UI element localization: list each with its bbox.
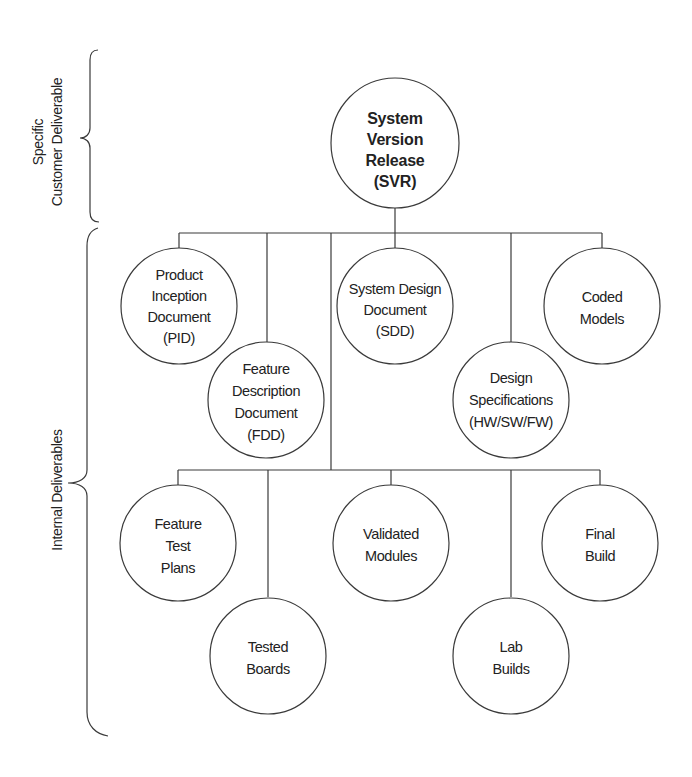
node-svr: System Version Release (SVR) <box>331 78 459 208</box>
node-lb-line-1: Lab <box>500 639 523 655</box>
node-sdd: System Design Document (SDD) <box>337 248 453 364</box>
node-pid: Product Inception Document (PID) <box>121 248 237 364</box>
node-ftp-line-3: Plans <box>161 560 195 576</box>
node-fdd-line-3: Document <box>235 405 298 421</box>
node-pid-line-3: Document <box>148 309 211 325</box>
node-lb: Lab Builds <box>453 598 569 714</box>
node-cm-line-1: Coded <box>582 289 623 305</box>
node-tb: Tested Boards <box>210 598 326 714</box>
node-tb-line-1: Tested <box>248 639 289 655</box>
node-svr-line-3: Release <box>365 152 424 169</box>
node-ftp-line-2: Test <box>166 538 191 554</box>
customer-deliverable-brace <box>80 50 99 222</box>
node-lb-line-2: Builds <box>492 661 529 677</box>
node-tb-line-2: Boards <box>246 661 290 677</box>
node-ds: Design Specifications (HW/SW/FW) <box>453 342 569 458</box>
side-label-internal-deliverables: Internal Deliverables <box>49 429 65 551</box>
node-fdd-line-1: Feature <box>242 361 290 377</box>
node-ds-line-2: Specifications <box>469 392 553 408</box>
side-label-specific: Specific <box>30 118 46 165</box>
node-ds-line-3: (HW/SW/FW) <box>469 414 553 430</box>
node-ds-line-1: Design <box>490 370 533 386</box>
node-vm-line-1: Validated <box>363 526 419 542</box>
node-vm: Validated Modules <box>333 485 449 601</box>
node-fb: Final Build <box>542 485 658 601</box>
node-sdd-line-1: System Design <box>349 281 442 297</box>
node-cm: Coded Models <box>544 248 660 364</box>
node-pid-line-1: Product <box>155 267 203 283</box>
node-sdd-line-2: Document <box>364 302 427 318</box>
internal-deliverables-brace <box>68 228 108 736</box>
node-fdd: Feature Description Document (FDD) <box>208 342 324 458</box>
node-ftp-line-1: Feature <box>154 516 202 532</box>
node-vm-line-2: Modules <box>365 548 417 564</box>
node-fdd-line-2: Description <box>232 383 300 399</box>
node-fb-line-2: Build <box>585 548 616 564</box>
node-sdd-line-3: (SDD) <box>376 323 414 339</box>
node-fdd-line-4: (FDD) <box>247 427 284 443</box>
node-svr-line-4: (SVR) <box>374 173 417 190</box>
node-pid-line-4: (PID) <box>163 330 195 346</box>
node-fb-line-1: Final <box>585 526 615 542</box>
node-cm-line-2: Models <box>580 311 624 327</box>
side-label-customer-deliverable: Customer Deliverable <box>49 77 65 206</box>
node-svr-line-1: System <box>367 110 423 127</box>
node-pid-line-2: Inception <box>151 288 207 304</box>
node-svr-line-2: Version <box>367 131 423 148</box>
node-ftp: Feature Test Plans <box>120 485 236 601</box>
deliverables-hierarchy-diagram: Specific Customer Deliverable Internal D… <box>0 0 692 777</box>
